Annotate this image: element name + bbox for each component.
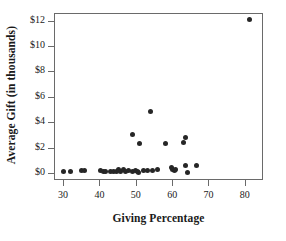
- data-point: [181, 140, 186, 145]
- y-axis-tick-label: $10: [5, 39, 45, 50]
- data-point: [183, 163, 188, 168]
- x-axis-tick-label: 80: [225, 189, 265, 200]
- y-axis-tick: [48, 71, 54, 72]
- data-point: [61, 169, 66, 174]
- data-point: [155, 167, 160, 172]
- x-axis-tick-label: 30: [43, 189, 83, 200]
- y-axis-tick: [48, 173, 54, 174]
- x-axis-tick-label: 60: [152, 189, 192, 200]
- plot-area: [54, 13, 263, 180]
- y-axis-tick: [48, 97, 54, 98]
- x-axis-tick: [136, 180, 137, 186]
- data-point: [163, 141, 168, 146]
- data-point: [185, 170, 190, 175]
- x-axis-tick-label: 50: [116, 189, 156, 200]
- x-axis-tick-label: 70: [188, 189, 228, 200]
- y-axis-tick-label: $8: [5, 64, 45, 75]
- data-point: [137, 141, 142, 146]
- y-axis-tick: [48, 46, 54, 47]
- y-axis-tick: [48, 122, 54, 123]
- x-axis-title: Giving Percentage: [54, 212, 263, 224]
- y-axis-tick-label: $4: [5, 115, 45, 126]
- data-point: [173, 167, 178, 172]
- data-point: [148, 109, 153, 114]
- x-axis-tick-label: 40: [79, 189, 119, 200]
- x-axis-tick: [99, 180, 100, 186]
- y-axis-tick: [48, 148, 54, 149]
- data-point: [103, 169, 108, 174]
- x-axis-tick: [172, 180, 173, 186]
- x-axis-tick: [245, 180, 246, 186]
- y-axis-tick-label: $12: [5, 14, 45, 25]
- x-axis-tick: [63, 180, 64, 186]
- scatter-plot-figure: Average Gift (in thousands) $0$2$4$6$8$1…: [0, 0, 286, 241]
- y-axis-tick-label: $2: [5, 141, 45, 152]
- y-axis-tick-label: $6: [5, 90, 45, 101]
- y-axis-tick: [48, 21, 54, 22]
- y-axis-tick-label: $0: [5, 166, 45, 177]
- x-axis-tick: [208, 180, 209, 186]
